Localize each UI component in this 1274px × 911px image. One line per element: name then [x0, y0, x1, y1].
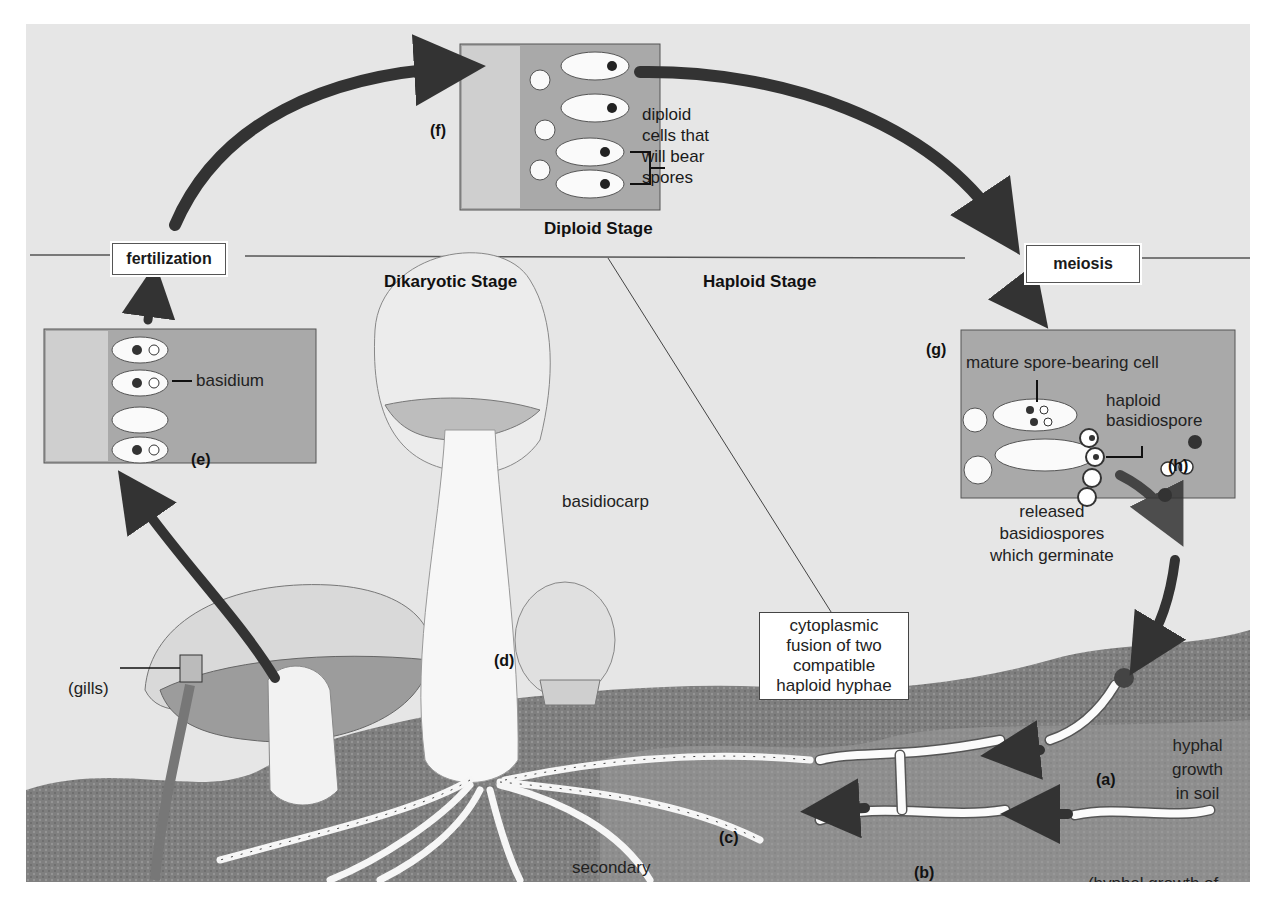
haploid-stage-label: Haploid Stage: [703, 272, 816, 292]
panel-f-diploid-cells: [460, 44, 665, 210]
mature-spore-bearing-cell-label: mature spore-bearing cell: [966, 353, 1159, 373]
germinating-spore: [1114, 668, 1134, 688]
caption-line: will bear: [642, 146, 709, 167]
label-line: basidiospores: [990, 523, 1114, 545]
label-line: (hyphal growth of: [1086, 872, 1220, 882]
c-letter: (c): [719, 829, 739, 847]
basidiocarp-label: basidiocarp: [562, 492, 649, 512]
meiosis-event: meiosis: [1026, 245, 1140, 283]
compatible-strain-label: (hyphal growth of compatible strain): [1086, 872, 1220, 882]
arrow-meiosis-to-g: [1020, 292, 1030, 305]
label-line: basidiospore: [1106, 411, 1202, 431]
label-line: hyphal: [1172, 734, 1223, 758]
fertilization-event: fertilization: [112, 243, 226, 275]
caption-line: spores: [642, 167, 709, 188]
label-line: mycelium: [572, 879, 650, 882]
caption-line: cells that: [642, 125, 709, 146]
d-letter: (d): [494, 652, 514, 670]
life-cycle-diagram: Diploid Stage Dikaryotic Stage Haploid S…: [26, 24, 1250, 882]
label-line: released: [990, 501, 1114, 523]
secondary-mycelium-label: secondary mycelium: [572, 857, 650, 882]
label-line: growth: [1172, 758, 1223, 782]
small-mushroom: [515, 582, 615, 705]
label-line: secondary: [572, 857, 650, 879]
b-letter: (b): [914, 864, 934, 882]
panel-g-letter: (g): [926, 341, 946, 359]
haploid-basidiospore-label: haploid basidiospore: [1106, 391, 1202, 431]
panel-e-letter: (e): [191, 451, 211, 469]
label-line: haploid hyphae: [764, 676, 904, 696]
a-letter: (a): [1096, 771, 1116, 789]
released-basidiospores-label: released basidiospores which germinate: [990, 501, 1114, 567]
arrow-b-to-c: [830, 808, 865, 810]
panel-f-caption: diploid cells that will bear spores: [642, 104, 709, 188]
label-line: fusion of two: [764, 636, 904, 656]
label-line: which germinate: [990, 545, 1114, 567]
cytoplasmic-fusion-box: cytoplasmic fusion of two compatible hap…: [759, 612, 909, 700]
label-line: haploid: [1106, 391, 1202, 411]
arrow-e-to-fertilization: [148, 290, 152, 320]
label-line: in soil: [1172, 782, 1223, 806]
hyphal-growth-label: hyphal growth in soil: [1172, 734, 1223, 806]
panel-h-letter: (h): [1168, 457, 1188, 475]
gills-label: (gills): [68, 679, 109, 699]
arrow-released-to-soil: [1145, 560, 1175, 650]
label-line: cytoplasmic: [764, 616, 904, 636]
diploid-stage-label: Diploid Stage: [544, 219, 653, 239]
arrow-fertilization-to-diploid: [175, 68, 450, 225]
arrow-a-to-fusion: [1010, 750, 1040, 753]
panel-e-basidium: [44, 329, 316, 463]
basidium-label: basidium: [196, 371, 264, 391]
caption-line: diploid: [642, 104, 709, 125]
panel-f-letter: (f): [430, 122, 446, 140]
label-line: compatible: [764, 656, 904, 676]
dikaryotic-stage-label: Dikaryotic Stage: [384, 272, 517, 292]
